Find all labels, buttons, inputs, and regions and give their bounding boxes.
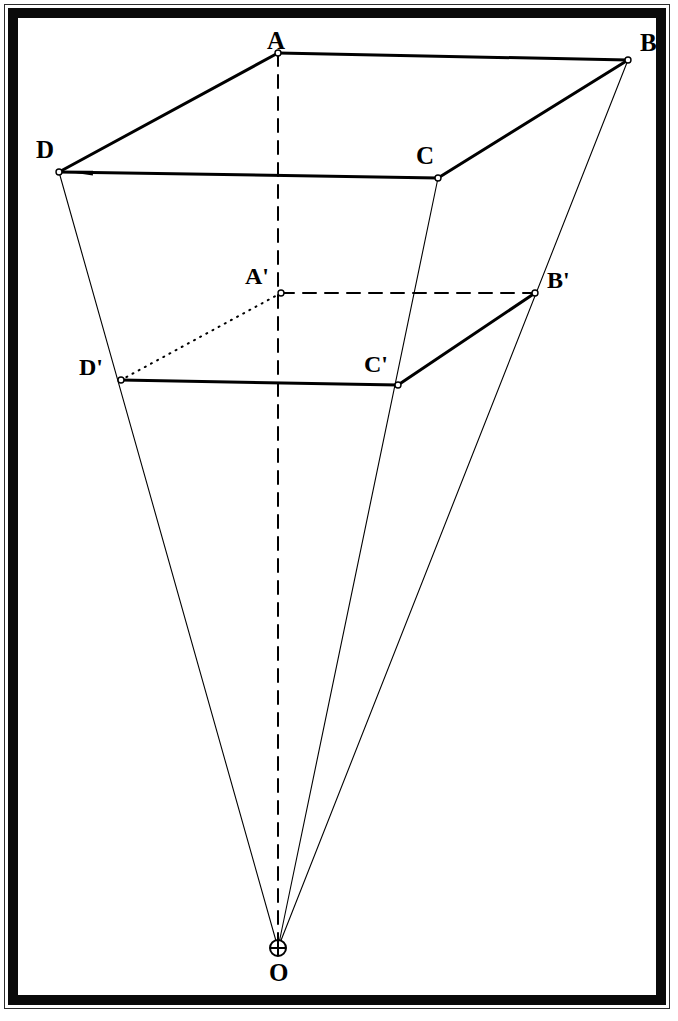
vertex-label-C: C — [416, 143, 434, 168]
vertex-marker-Dp — [118, 377, 124, 383]
edge-Dp-Cp — [121, 380, 398, 385]
vertex-label-B: B — [640, 30, 656, 55]
edge-D-C — [59, 172, 438, 178]
vertex-label-Cp: C' — [364, 352, 388, 376]
edge-D-A — [59, 53, 278, 172]
edge-A-B — [278, 53, 628, 60]
vertex-label-Dp: D' — [79, 355, 103, 379]
vertex-label-O: O — [269, 960, 288, 985]
vertex-marker-B — [625, 57, 631, 63]
edge-C-B — [438, 60, 628, 178]
diagram-canvas: ABCDA'B'C'D'O — [18, 18, 656, 995]
vertex-marker-C — [435, 175, 441, 181]
vertex-label-Bp: B' — [547, 268, 570, 292]
edge-B-O — [278, 60, 628, 948]
vertex-label-Ap: A' — [245, 264, 269, 288]
vertex-marker-layer — [56, 50, 631, 956]
edge-Ap-Dp — [121, 293, 281, 380]
vertex-marker-Bp — [532, 290, 538, 296]
vertex-label-D: D — [36, 137, 54, 162]
vertex-marker-Ap — [278, 290, 284, 296]
projection-figure — [18, 18, 656, 995]
vertex-label-A: A — [267, 28, 285, 53]
diagram-page: ABCDA'B'C'D'O — [0, 0, 678, 1021]
vertex-marker-D — [56, 169, 62, 175]
vertex-marker-Cp — [395, 382, 401, 388]
edge-Cp-Bp — [398, 293, 535, 385]
edge-layer — [59, 53, 628, 948]
vertex-marker-O — [270, 940, 286, 956]
